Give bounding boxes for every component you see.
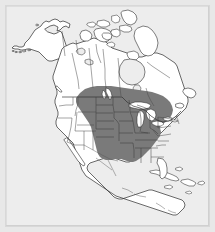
north-america-map xyxy=(0,0,215,232)
jamaica xyxy=(165,185,173,189)
range-map-figure: North America distribution range map Bre… xyxy=(0,0,215,232)
nova-scotia xyxy=(176,103,184,108)
hispaniola xyxy=(181,179,196,186)
border-sc-ga xyxy=(156,145,166,146)
florida-peninsula xyxy=(157,158,167,179)
trinidad-island xyxy=(186,191,192,194)
axel-heiberg-island xyxy=(112,15,120,23)
ellesmere-island xyxy=(121,10,137,25)
banks-island xyxy=(80,30,92,41)
hudson-bay xyxy=(119,59,145,85)
border-mexico-guatemala xyxy=(122,188,133,193)
devon-island xyxy=(120,25,132,32)
prince-patrick-island xyxy=(87,22,96,27)
melville-island xyxy=(97,20,110,27)
baffin-island xyxy=(134,26,158,56)
puerto-rico xyxy=(198,181,205,185)
bahamas xyxy=(176,167,183,171)
bering-island xyxy=(36,24,39,26)
somerset-island xyxy=(111,29,120,37)
florida-detail xyxy=(157,158,167,179)
